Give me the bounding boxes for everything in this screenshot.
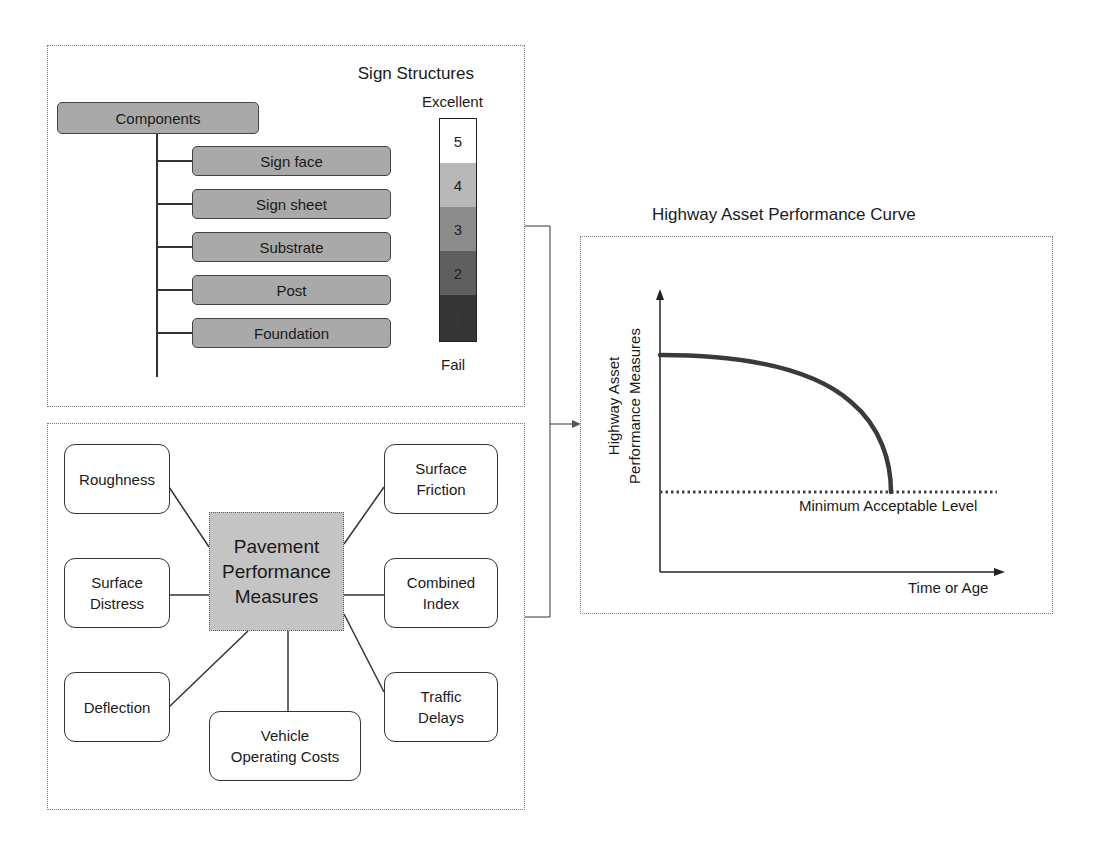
x-axis-label: Time or Age xyxy=(908,579,988,596)
performance-curve-panel: Minimum Acceptable Level Time or Age Hig… xyxy=(580,236,1053,614)
threshold-label: Minimum Acceptable Level xyxy=(799,497,977,514)
y-axis-arrowhead xyxy=(656,289,664,300)
performance-curve-plot xyxy=(581,237,1054,615)
y-axis-label-line: Highway Asset xyxy=(603,316,624,496)
y-axis-label-line: Performance Measures xyxy=(624,316,645,496)
curve-title: Highway Asset Performance Curve xyxy=(652,205,916,225)
x-axis-arrowhead xyxy=(994,568,1005,576)
y-axis-label: Highway Asset Performance Measures xyxy=(603,316,645,496)
performance-curve-line xyxy=(660,355,891,492)
